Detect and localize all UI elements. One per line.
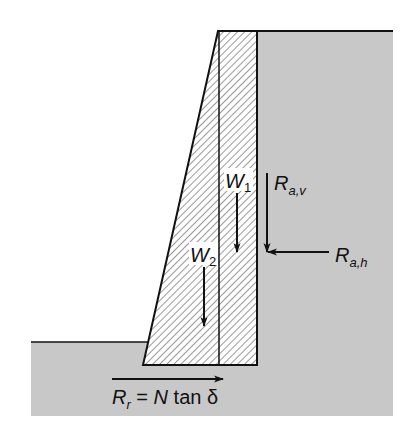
retaining-wall — [143, 31, 257, 365]
retaining-wall-diagram: W1 W2 Ra,v Ra,h Rr = N tan δ — [0, 0, 410, 440]
